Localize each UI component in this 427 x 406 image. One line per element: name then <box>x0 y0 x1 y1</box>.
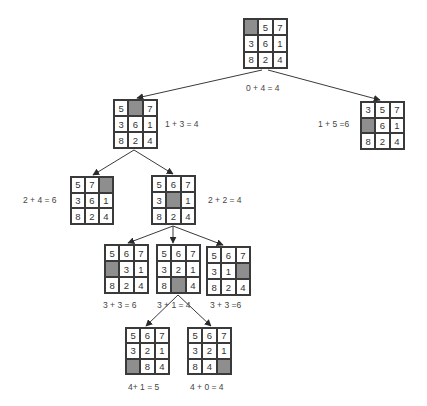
edge-arrow-n1a-to-n2a <box>93 150 134 175</box>
tile: 3 <box>119 261 133 277</box>
tile: 4 <box>99 208 113 224</box>
edge-arrow-n1a-to-n2b <box>134 150 173 174</box>
tile: 4 <box>155 359 169 374</box>
tile: 5 <box>258 19 272 35</box>
tile: 5 <box>105 245 119 261</box>
tile: 1 <box>217 343 231 358</box>
tile: 7 <box>181 176 195 192</box>
tile: 8 <box>361 133 375 149</box>
tile: 5 <box>375 102 389 118</box>
blank-tile <box>99 177 113 193</box>
tile: 2 <box>85 208 99 224</box>
tile: 5 <box>152 176 166 192</box>
tile: 7 <box>390 102 404 118</box>
puzzle-board-n3a: 56731824 <box>104 244 149 294</box>
tile: 8 <box>140 359 154 374</box>
blank-tile <box>166 192 180 208</box>
puzzle-board-n2a: 57361824 <box>70 176 114 225</box>
puzzle-board-n4a: 56732184 <box>125 327 170 375</box>
tile: 4 <box>236 279 250 295</box>
tile: 8 <box>152 208 166 224</box>
blank-tile <box>126 359 140 374</box>
tile: 5 <box>126 328 140 343</box>
tile: 1 <box>186 261 200 277</box>
tile: 1 <box>390 118 404 134</box>
tile: 3 <box>244 35 258 51</box>
tile: 7 <box>186 245 200 261</box>
tile: 2 <box>375 133 389 149</box>
blank-tile <box>128 100 142 116</box>
tile: 5 <box>114 100 128 116</box>
tile: 7 <box>217 328 231 343</box>
edge-arrow-n2b-to-n3c <box>173 226 223 245</box>
cost-label-n3a: 3 + 3 = 6 <box>103 300 137 310</box>
tile: 7 <box>85 177 99 193</box>
blank-tile <box>171 277 185 293</box>
tile: 1 <box>134 261 148 277</box>
tile: 1 <box>99 193 113 209</box>
tile: 7 <box>236 247 250 263</box>
puzzle-board-root: 57361824 <box>243 18 288 69</box>
tile: 6 <box>202 328 216 343</box>
tile: 3 <box>157 261 171 277</box>
tile: 3 <box>126 343 140 358</box>
tile: 1 <box>155 343 169 358</box>
tile: 3 <box>114 116 128 132</box>
tile: 6 <box>258 35 272 51</box>
cost-label-n3c: 3 + 3 =6 <box>210 300 241 310</box>
puzzle-board-n1b: 35761824 <box>360 101 405 150</box>
puzzle-board-n4b: 56732184 <box>187 327 232 375</box>
tile: 1 <box>143 116 157 132</box>
tile: 3 <box>152 192 166 208</box>
search-tree-diagram: 573618240 + 4 = 4573618241 + 3 = 4357618… <box>0 0 427 406</box>
tile: 6 <box>119 245 133 261</box>
blank-tile <box>236 263 250 279</box>
tile: 2 <box>171 261 185 277</box>
tile: 6 <box>140 328 154 343</box>
tile: 4 <box>273 52 287 68</box>
tile: 2 <box>119 277 133 293</box>
tile: 3 <box>188 343 202 358</box>
cost-label-n3b: 3 + 1 = 4 <box>157 300 191 310</box>
tile: 8 <box>188 359 202 374</box>
tile: 1 <box>273 35 287 51</box>
tile: 7 <box>155 328 169 343</box>
tile: 1 <box>221 263 235 279</box>
tile: 8 <box>244 52 258 68</box>
puzzle-board-n1a: 57361824 <box>113 99 158 149</box>
tile: 2 <box>258 52 272 68</box>
tile: 4 <box>390 133 404 149</box>
tile: 7 <box>143 100 157 116</box>
tile: 6 <box>375 118 389 134</box>
tile: 8 <box>157 277 171 293</box>
cost-label-n2b: 2 + 2 = 4 <box>208 195 242 205</box>
tile: 6 <box>166 176 180 192</box>
tile: 5 <box>157 245 171 261</box>
tile: 1 <box>181 192 195 208</box>
tile: 6 <box>85 193 99 209</box>
cost-label-n1a: 1 + 3 = 4 <box>165 119 199 129</box>
tile: 8 <box>71 208 85 224</box>
tile: 6 <box>128 116 142 132</box>
tile: 7 <box>273 19 287 35</box>
edge-arrow-root-to-n1b <box>268 70 380 100</box>
tile: 2 <box>221 279 235 295</box>
tile: 4 <box>143 132 157 148</box>
edge-arrow-root-to-n1a <box>137 70 262 98</box>
tile: 2 <box>166 208 180 224</box>
edge-arrow-n2b-to-n3a <box>128 226 173 243</box>
puzzle-board-n3c: 56731824 <box>206 246 251 296</box>
tile: 2 <box>202 343 216 358</box>
blank-tile <box>217 359 231 374</box>
cost-label-n1b: 1 + 5 =6 <box>318 119 349 129</box>
tile: 7 <box>134 245 148 261</box>
blank-tile <box>244 19 258 35</box>
tile: 4 <box>134 277 148 293</box>
tile: 2 <box>140 343 154 358</box>
puzzle-board-n3b: 56732184 <box>156 244 201 294</box>
tile: 8 <box>207 279 221 295</box>
cost-label-n4a: 4+ 1 = 5 <box>128 382 159 392</box>
blank-tile <box>105 261 119 277</box>
tile: 4 <box>186 277 200 293</box>
cost-label-n2a: 2 + 4 = 6 <box>23 195 57 205</box>
